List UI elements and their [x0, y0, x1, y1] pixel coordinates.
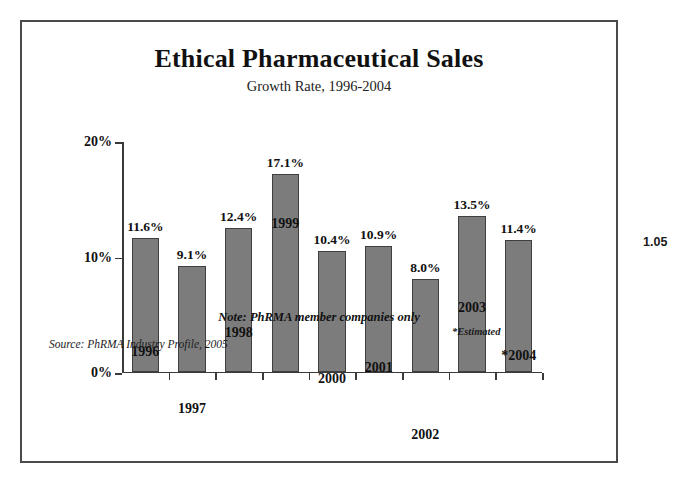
bar-value-label: 10.4% [313, 232, 350, 248]
chart-subtitle: Growth Rate, 1996-2004 [22, 78, 616, 95]
bar: 10.9%2001 [365, 246, 392, 372]
y-axis-tick [115, 373, 122, 375]
bar: 8.0%2002 [412, 279, 439, 371]
y-axis-tick-label: 10% [84, 250, 112, 266]
bar-value-label: 9.1% [177, 247, 207, 263]
x-axis-category-label: 1998 [225, 325, 253, 341]
x-axis-category-label: 1999 [271, 216, 299, 232]
bar: 17.1%1999 [272, 174, 299, 372]
x-axis-tick [449, 373, 451, 380]
x-axis-tick [309, 373, 311, 380]
x-axis-category-label: 1997 [178, 401, 206, 417]
x-axis-category-label: 2002 [411, 427, 439, 443]
bar-value-label: 11.6% [127, 219, 163, 235]
bar: 11.4%*2004 [505, 240, 532, 372]
source-footnote: Source: PhRMA Industry Profile, 2005 [49, 338, 228, 350]
bar: 13.5%2003 [458, 216, 485, 372]
x-axis-tick [262, 373, 264, 380]
bar-value-label: 8.0% [410, 260, 440, 276]
x-axis-tick [495, 373, 497, 380]
y-axis-tick-label: 0% [91, 365, 112, 381]
bar-value-label: 17.1% [267, 155, 304, 171]
page-number-marker: 1.05 [643, 235, 667, 249]
bar-value-label: 12.4% [220, 209, 257, 225]
x-axis-tick [355, 373, 357, 380]
y-axis-tick-label: 20% [84, 134, 112, 150]
x-axis-tick [542, 373, 544, 380]
y-axis-tick [115, 142, 122, 144]
chart-note: Note: PhRMA member companies only [22, 310, 616, 325]
x-axis-category-label: *2004 [501, 348, 536, 364]
bar-value-label: 10.9% [360, 227, 397, 243]
bar: 12.4%1998 [225, 228, 252, 371]
x-axis-tick [402, 373, 404, 380]
bar: 11.6%1996 [132, 238, 159, 372]
slide-page: { "page_marker": "1.05", "chart_data": {… [0, 0, 681, 479]
x-axis-tick [169, 373, 171, 380]
page-title: Ethical Pharmaceutical Sales [22, 44, 616, 74]
bar-value-label: 13.5% [453, 197, 490, 213]
x-axis-category-label: 2001 [365, 360, 393, 376]
estimated-footnote: *Estimated [452, 326, 500, 337]
x-axis-tick [215, 373, 217, 380]
x-axis-category-label: 2000 [318, 371, 346, 387]
slide-frame: Ethical Pharmaceutical Sales Growth Rate… [20, 20, 618, 463]
y-axis-tick [115, 258, 122, 260]
bar-value-label: 11.4% [500, 221, 536, 237]
